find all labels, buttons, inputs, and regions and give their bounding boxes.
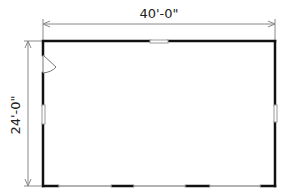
depth-label: 24'-0" [8, 95, 23, 134]
floor-plan: 40'-0" 24'-0" [0, 0, 299, 195]
left-window [42, 105, 45, 124]
width-dimension [43, 19, 275, 39]
right-window [274, 105, 277, 122]
depth-dimension [24, 41, 41, 186]
door-swing-icon [43, 55, 56, 73]
width-label: 40'-0" [139, 6, 178, 21]
walls [43, 41, 275, 186]
top-window [150, 40, 168, 43]
